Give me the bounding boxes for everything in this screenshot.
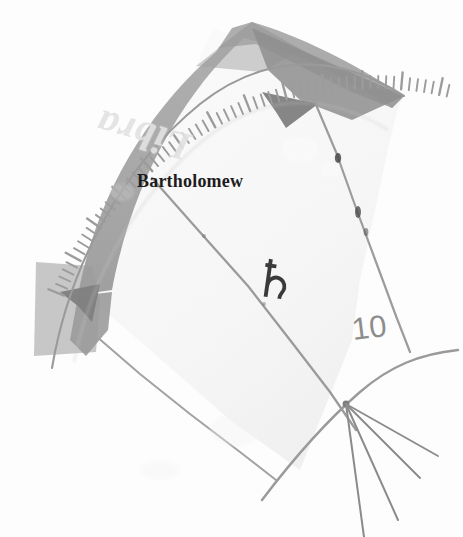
arc-tick	[354, 76, 355, 88]
arc-tick	[346, 77, 347, 89]
arc-tick	[409, 78, 410, 90]
instrument-drawing	[0, 0, 463, 537]
arc-tick	[338, 78, 339, 90]
scanned-instrument-image: Libra Bartholomew ♄ 10	[0, 0, 463, 537]
arc-tick	[393, 77, 394, 89]
arc-tick	[386, 76, 387, 88]
arc-tick	[401, 72, 403, 89]
